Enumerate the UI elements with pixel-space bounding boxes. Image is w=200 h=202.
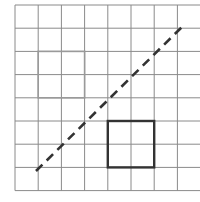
grid-diagram bbox=[0, 0, 200, 202]
squares bbox=[38, 51, 154, 167]
